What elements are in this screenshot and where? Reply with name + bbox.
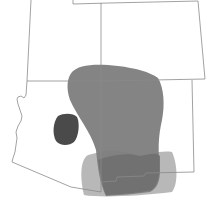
range-map (0, 0, 218, 202)
utah-west-border (27, 0, 31, 81)
map-canvas (0, 0, 218, 202)
isolated-population-area (54, 114, 79, 145)
overlap-area (98, 154, 160, 195)
utah-north-notch (73, 0, 109, 4)
